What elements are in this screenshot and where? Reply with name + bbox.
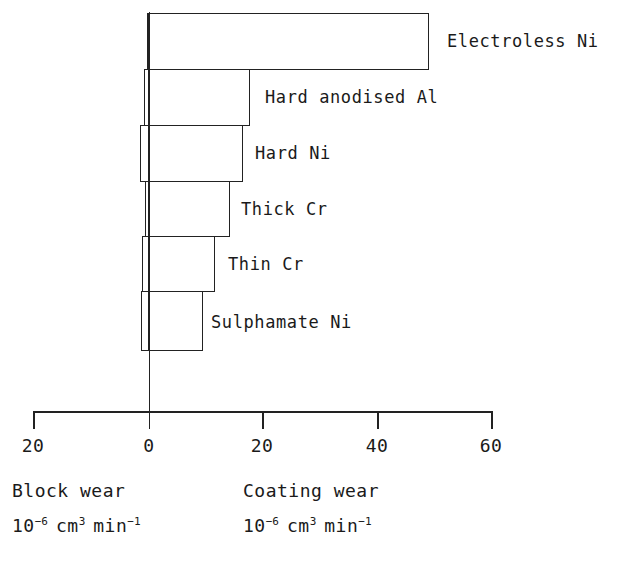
axis-tick-0 (149, 411, 151, 429)
legend: Block wear 10−6cm3min−1 Coating wear 10−… (0, 470, 635, 562)
axis-tick-label-20: 20 (242, 437, 282, 455)
axis-tick-60 (491, 411, 493, 429)
legend-left-exponent: −6 (35, 515, 48, 528)
legend-block-wear-title: Block wear (12, 482, 141, 500)
axis-tick-40 (377, 411, 379, 429)
axis-tick-20 (262, 411, 264, 429)
x-axis: 20 0 20 40 60 (0, 0, 635, 470)
plot-area: Electroless Ni Hard anodised Al Hard Ni … (0, 0, 635, 470)
legend-right-exponent: −6 (266, 515, 279, 528)
legend-block-wear-units: 10−6cm3min−1 (12, 516, 141, 535)
legend-block-wear: Block wear 10−6cm3min−1 (12, 482, 141, 535)
legend-coating-wear-units: 10−6cm3min−1 (243, 516, 379, 535)
axis-tick-label-0: 0 (129, 437, 169, 455)
legend-left-unit-time-exp: −1 (127, 515, 140, 528)
legend-right-unit-volume: cm (287, 515, 310, 536)
legend-coating-wear: Coating wear 10−6cm3min−1 (243, 482, 379, 535)
legend-coating-wear-title: Coating wear (243, 482, 379, 500)
axis-tick-label-60: 60 (471, 437, 511, 455)
legend-right-unit-time: min (324, 515, 358, 536)
legend-left-unit-time: min (93, 515, 127, 536)
legend-left-unit-volume: cm (56, 515, 79, 536)
legend-right-unit-volume-exp: 3 (310, 515, 317, 528)
legend-right-unit-time-exp: −1 (358, 515, 371, 528)
legend-left-unit-volume-exp: 3 (79, 515, 86, 528)
legend-left-mantissa: 10 (12, 515, 35, 536)
axis-tick-minus20 (33, 411, 35, 429)
wear-chart-figure: Electroless Ni Hard anodised Al Hard Ni … (0, 0, 635, 562)
axis-tick-label-minus20: 20 (13, 437, 53, 455)
legend-right-mantissa: 10 (243, 515, 266, 536)
axis-tick-label-40: 40 (357, 437, 397, 455)
